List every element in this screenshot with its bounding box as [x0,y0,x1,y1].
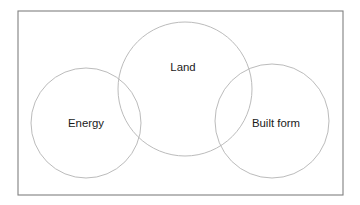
venn-diagram-svg: Energy Land Built form [0,0,360,205]
circle-land [118,22,252,156]
outer-border-rectangle [18,11,343,195]
label-land: Land [170,61,195,73]
venn-diagram-canvas: Energy Land Built form [0,0,360,205]
label-energy: Energy [68,117,104,129]
label-built-form: Built form [252,117,300,129]
